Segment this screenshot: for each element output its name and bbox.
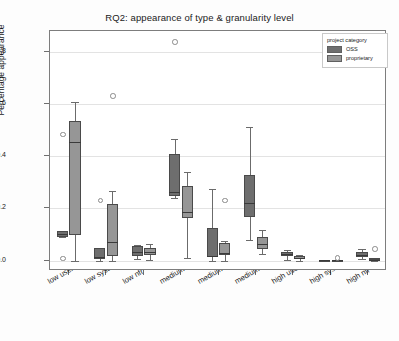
legend-swatch-oss xyxy=(327,46,342,54)
y-tick-label: 0.6 xyxy=(0,99,6,106)
y-tick-label: 0.0 xyxy=(0,256,6,263)
legend-item-proprietary[interactable]: proprietary xyxy=(327,55,384,63)
legend: project category OSSproprietary xyxy=(322,33,388,68)
cap-lower xyxy=(371,261,378,262)
y-tick-label: 0.8 xyxy=(0,47,6,54)
y-axis-label: Percentage appearance xyxy=(0,0,6,150)
y-tick-label: 0.2 xyxy=(0,203,6,210)
legend-items: OSSproprietary xyxy=(327,46,384,63)
legend-title: project category xyxy=(327,37,384,43)
legend-swatch-proprietary xyxy=(327,55,342,63)
outlier-point xyxy=(372,246,378,252)
legend-label: proprietary xyxy=(346,55,373,61)
chart-title: RQ2: appearance of type & granularity le… xyxy=(0,12,399,23)
chart-figure: RQ2: appearance of type & granularity le… xyxy=(0,0,399,341)
y-tick-label: 0.4 xyxy=(0,151,6,158)
legend-label: OSS xyxy=(346,46,358,52)
legend-item-oss[interactable]: OSS xyxy=(327,46,384,54)
median-line xyxy=(369,260,380,261)
